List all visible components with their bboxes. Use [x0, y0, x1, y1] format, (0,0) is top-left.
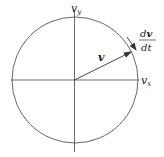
vx-label: vx [141, 74, 151, 88]
svg-text:dt: dt [141, 42, 152, 53]
vy-label: vy [71, 2, 82, 16]
vector-v-label: v [98, 51, 105, 64]
svg-text:dv: dv [140, 28, 152, 39]
tangent-arrow [127, 37, 136, 50]
velocity-diagram: vy vx v dv dt [0, 0, 164, 157]
dv-dt-label: dv dt [139, 28, 156, 53]
